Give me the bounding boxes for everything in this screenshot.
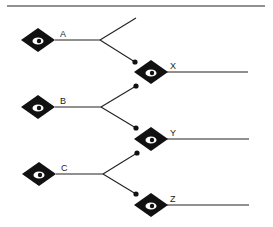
upper-branch-line [101, 86, 136, 107]
branch-end-dot [134, 150, 139, 155]
target-label-x: X [170, 61, 176, 71]
lower-branch-line [101, 107, 136, 128]
branch-end-dot [133, 191, 138, 196]
upper-branch-line [103, 153, 137, 174]
eye-diamond-icon [134, 60, 168, 84]
source-label-c: C [61, 163, 68, 173]
target-label-z: Z [170, 194, 176, 204]
upper-branch-line [100, 18, 136, 40]
branching-diagram: ABCXYZ [0, 0, 273, 227]
eye-diamond-icon [21, 28, 55, 52]
branch-end-dot [132, 59, 137, 64]
lower-branch-line [100, 40, 135, 62]
eye-diamond-icon [21, 95, 55, 119]
source-label-b: B [60, 96, 66, 106]
branch-end-dot [133, 83, 138, 88]
eye-diamond-icon [134, 127, 168, 151]
lower-branch-line [103, 174, 136, 194]
eye-diamond-icon [134, 193, 168, 217]
branch-end-dot [133, 125, 138, 130]
source-label-a: A [60, 29, 66, 39]
eye-diamond-icon [22, 162, 56, 186]
target-label-y: Y [170, 128, 176, 138]
